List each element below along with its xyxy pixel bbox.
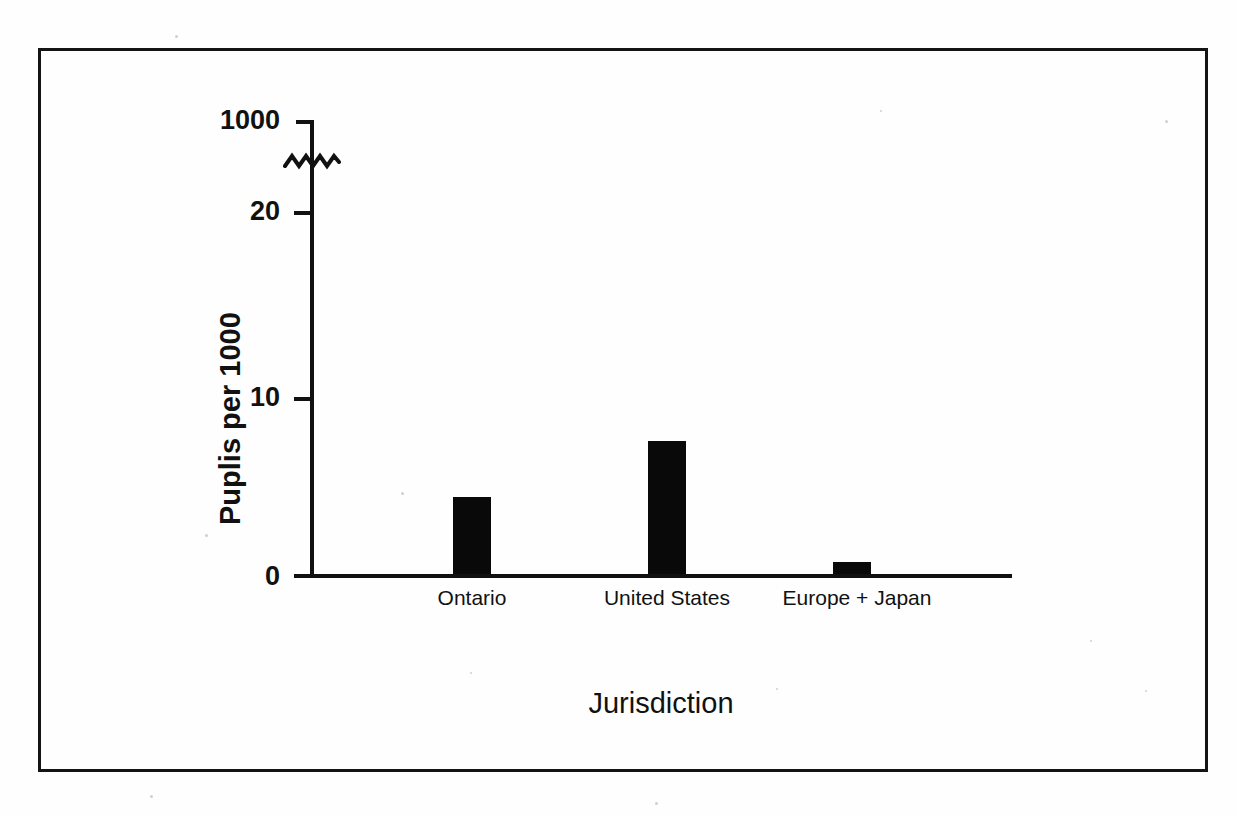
- bar-europe-japan: [833, 562, 871, 574]
- y-tick-20: [294, 211, 314, 215]
- bar-ontario: [453, 497, 491, 574]
- x-axis-line-extension: [700, 576, 1012, 578]
- y-axis-line: [310, 120, 314, 578]
- x-category-label-europe-japan: Europe + Japan: [762, 586, 952, 610]
- y-tick-label-1000: 1000: [160, 107, 280, 134]
- axis-break-zigzag-icon: [283, 148, 341, 178]
- y-tick-0: [294, 574, 314, 578]
- bar-chart-plot: 1000 20 10 0 Ontario United States Europ…: [0, 0, 1237, 817]
- y-tick-label-20: 20: [160, 198, 280, 225]
- y-axis-title: Puplis per 1000: [214, 312, 247, 525]
- figure-screenshot: 1000 20 10 0 Ontario United States Europ…: [0, 0, 1237, 817]
- y-tick-10: [294, 397, 314, 401]
- x-category-label-ontario: Ontario: [382, 586, 562, 610]
- y-axis-top-cap: [296, 120, 314, 124]
- x-category-label-united-states: United States: [577, 586, 757, 610]
- x-axis-title: Jurisdiction: [310, 687, 1012, 720]
- y-tick-label-0: 0: [160, 563, 280, 590]
- bar-united-states: [648, 441, 686, 574]
